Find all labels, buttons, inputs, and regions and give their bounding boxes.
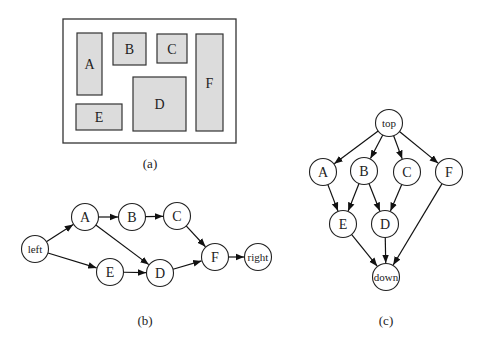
node-label: C bbox=[402, 165, 411, 180]
edge-b-to-d bbox=[369, 184, 380, 211]
edge-top-to-a bbox=[334, 131, 378, 164]
node-a: A bbox=[72, 204, 99, 231]
node-label: F bbox=[211, 250, 219, 265]
block-f: F bbox=[196, 34, 223, 131]
node-label: D bbox=[380, 217, 390, 232]
node-label: C bbox=[172, 209, 181, 224]
edge-c-to-d bbox=[390, 184, 401, 211]
node-label: A bbox=[80, 210, 91, 225]
edge-left-to-a bbox=[46, 225, 73, 242]
node-label: A bbox=[318, 165, 329, 180]
node-b: B bbox=[351, 158, 378, 185]
panel-b-horizontal-graph: leftABCEDFright (b) bbox=[22, 203, 272, 329]
caption-a: (a) bbox=[143, 156, 157, 171]
edge-top-to-b bbox=[370, 135, 382, 159]
edge-e-to-down bbox=[352, 234, 378, 266]
node-d: D bbox=[147, 260, 174, 287]
block-e: E bbox=[76, 104, 122, 130]
edge-f-to-down bbox=[393, 184, 442, 265]
caption-c: (c) bbox=[379, 313, 393, 328]
edge-a-to-d bbox=[96, 225, 149, 265]
node-e: E bbox=[97, 259, 124, 286]
block-b: B bbox=[113, 33, 146, 65]
edge-left-to-e bbox=[48, 253, 97, 268]
panel-c-vertical-graph: topABCFEDdown (c) bbox=[310, 110, 463, 329]
edge-a-to-e bbox=[328, 185, 338, 211]
node-f: F bbox=[202, 244, 229, 271]
node-label: left bbox=[28, 243, 43, 255]
panel-a-rectangle-packing: ABCFDE (a) bbox=[63, 19, 236, 171]
node-top: top bbox=[376, 110, 403, 137]
block-label: E bbox=[95, 110, 104, 125]
block-label: F bbox=[206, 76, 214, 91]
node-label: B bbox=[127, 210, 136, 225]
edge-c-to-f bbox=[186, 226, 205, 247]
edges-c bbox=[328, 131, 442, 266]
block-label: C bbox=[167, 42, 176, 57]
block-label: B bbox=[125, 42, 134, 57]
node-c: C bbox=[164, 203, 191, 230]
nodes-c: topABCFEDdown bbox=[310, 110, 463, 291]
block-a: A bbox=[77, 33, 102, 95]
block-d: D bbox=[133, 77, 186, 131]
node-a: A bbox=[310, 159, 337, 186]
node-d: D bbox=[372, 211, 399, 238]
node-e: E bbox=[330, 211, 357, 238]
node-left: left bbox=[22, 236, 49, 263]
caption-b: (b) bbox=[137, 313, 152, 328]
node-f: F bbox=[436, 159, 463, 186]
node-right: right bbox=[245, 244, 272, 271]
nodes-b: leftABCEDFright bbox=[22, 203, 272, 287]
edge-top-to-c bbox=[394, 136, 403, 159]
node-label: B bbox=[359, 164, 368, 179]
node-down: down bbox=[373, 264, 400, 291]
block-label: D bbox=[154, 97, 164, 112]
node-b: B bbox=[119, 204, 146, 231]
node-label: top bbox=[382, 117, 397, 129]
node-label: E bbox=[339, 217, 348, 232]
node-label: down bbox=[374, 271, 399, 283]
block-label: A bbox=[84, 57, 95, 72]
block-c: C bbox=[157, 34, 187, 63]
node-label: F bbox=[445, 165, 453, 180]
node-c: C bbox=[394, 159, 421, 186]
diagram-canvas: ABCFDE (a) leftABCEDFright (b) topABCFED… bbox=[0, 0, 485, 343]
node-label: E bbox=[106, 265, 115, 280]
edge-d-to-f bbox=[173, 261, 202, 269]
edge-b-to-e bbox=[348, 184, 359, 211]
node-label: right bbox=[248, 251, 269, 263]
node-label: D bbox=[155, 266, 165, 281]
